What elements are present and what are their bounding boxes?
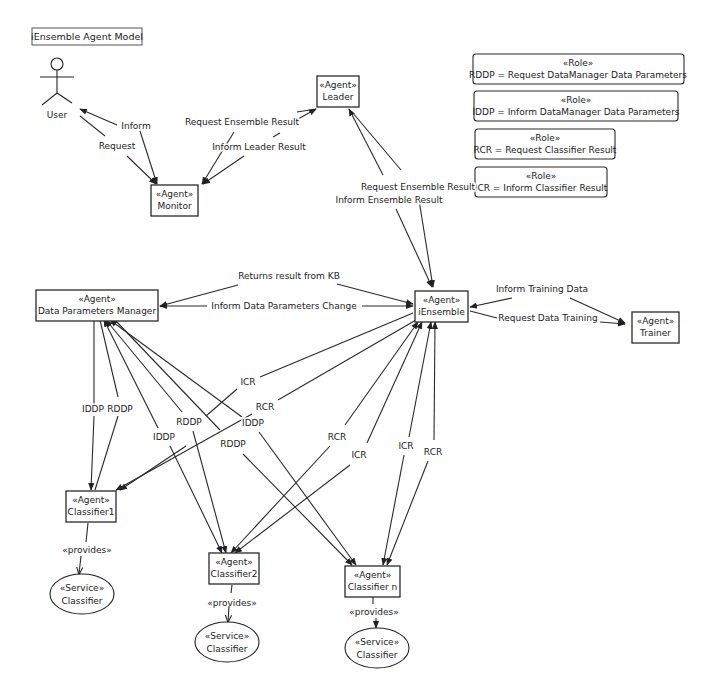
classifiern-name: Classifier n: [348, 582, 398, 592]
msg-c1-rddp: RDDP: [107, 404, 133, 414]
agent-monitor[interactable]: «Agent» Monitor: [151, 185, 198, 216]
role-iddp-text: IDDP = Inform DataManager Data Parameter…: [472, 107, 679, 117]
msg-inform-ensemble-result: Inform Ensemble Result: [335, 195, 442, 205]
msg-request-ensemble-result-top: Request Ensemble Result: [185, 117, 300, 127]
trainer-name: Trainer: [639, 328, 671, 338]
agent-iensemble[interactable]: «Agent» iEnsemble: [415, 291, 468, 322]
edge-c1-provides-top: [86, 523, 88, 542]
msg-inform: Inform: [121, 121, 150, 131]
agent-leader[interactable]: «Agent» Leader: [317, 76, 359, 107]
msg-returns-result-from-kb: Returns result from KB: [238, 271, 340, 281]
msg-request-ensemble-result: Request Ensemble Result: [361, 182, 476, 192]
edge-request-ensemble-to-monitor: [202, 132, 234, 184]
role-iddp-stereotype: «Role»: [561, 95, 591, 105]
edge-c2-iddp-bottom: [170, 446, 222, 553]
edge-c1-rcr-top: [278, 320, 416, 400]
msg-request: Request: [99, 141, 136, 151]
msg-inform-leader-result: Inform Leader Result: [212, 142, 306, 152]
msg-request-data-training: Request Data Training: [498, 313, 597, 323]
edge-inform-to-user: [80, 109, 117, 125]
iensemble-stereotype: «Agent»: [423, 295, 461, 305]
trainer-stereotype: «Agent»: [637, 316, 675, 326]
edge-inform-leader-to-monitor: [203, 156, 244, 184]
edge-request-training-to-trainer: [600, 322, 625, 324]
role-legend: «Role» RDDP = Request DataManager Data P…: [469, 54, 687, 197]
msg-inform-training-data: Inform Training Data: [496, 284, 588, 294]
role-iddp: «Role» IDDP = Inform DataManager Data Pa…: [472, 91, 679, 121]
msg-cn-iddp: IDDP: [242, 418, 265, 428]
classifier2-name: Classifier2: [211, 569, 258, 579]
edge-fragment: [273, 133, 280, 137]
msg-c2-rcr: RCR: [328, 432, 346, 442]
dpm-name: Data Parameters Manager: [38, 306, 156, 316]
role-rddp-text: RDDP = Request DataManager Data Paramete…: [469, 70, 687, 80]
classifier2-stereotype: «Agent»: [215, 557, 253, 567]
role-icr: «Role» ICR = Inform Classifier Result: [475, 167, 608, 197]
user-label: User: [47, 110, 68, 120]
diagram-title: iEnsemble Agent Model: [31, 28, 143, 45]
classifier1-name: Classifier1: [68, 507, 115, 517]
edge-cn-iddp-bottom: [259, 432, 356, 565]
leader-stereotype: «Agent»: [319, 80, 357, 90]
service-classifier-1[interactable]: «Service» Classifier: [50, 574, 114, 614]
servicen-stereotype: «Service»: [355, 637, 399, 647]
service1-name: Classifier: [61, 596, 102, 606]
user-actor[interactable]: User: [40, 58, 74, 120]
edge-c1-rddp-bottom: [95, 416, 118, 490]
edge-c1-icr-top: [260, 313, 413, 377]
agent-classifier1[interactable]: «Agent» Classifier1: [66, 491, 116, 522]
role-icr-text: ICR = Inform Classifier Result: [475, 183, 608, 193]
role-rcr-stereotype: «Role»: [530, 133, 560, 143]
role-rcr: «Role» RCR = Request Classifier Result: [474, 129, 617, 159]
provides-label-n: «provides»: [349, 607, 399, 617]
edge-request-from-user: [80, 116, 105, 136]
msg-cn-icr: ICR: [398, 441, 413, 451]
edge-c2-rddp-bottom: [193, 431, 226, 553]
agent-data-parameters-manager[interactable]: «Agent» Data Parameters Manager: [36, 290, 158, 321]
agent-trainer[interactable]: «Agent» Trainer: [632, 312, 679, 343]
servicen-name: Classifier: [356, 650, 397, 660]
edge-c2-provides-top: [231, 585, 232, 593]
edge-cn-rcr-top: [434, 322, 435, 440]
classifier1-stereotype: «Agent»: [72, 495, 110, 505]
msg-c2-icr: ICR: [351, 450, 366, 460]
edge-c1-provides-bottom: [79, 556, 81, 574]
edge-request-to-monitor: [127, 156, 156, 184]
dpm-stereotype: «Agent»: [78, 294, 116, 304]
msg-cn-rddp: RDDP: [220, 439, 246, 449]
edge-inform-training-to-iensemble: [470, 298, 512, 307]
msg-c1-rcr: RCR: [256, 402, 274, 412]
edge-c1-icr-bottom: [120, 446, 186, 490]
edge-c2-provides-bottom: [228, 606, 229, 622]
diagram-title-text: iEnsemble Agent Model: [31, 31, 143, 42]
edge-c2-rddp-top: [106, 320, 182, 412]
role-rddp-stereotype: «Role»: [563, 58, 593, 68]
role-icr-stereotype: «Role»: [526, 171, 556, 181]
edge-c1-iddp-bottom: [91, 416, 94, 490]
classifiern-stereotype: «Agent»: [354, 570, 392, 580]
service-classifier-2[interactable]: «Service» Classifier: [195, 622, 259, 662]
role-rcr-text: RCR = Request Classifier Result: [474, 145, 617, 155]
service2-name: Classifier: [206, 644, 247, 654]
msg-c2-rddp: RDDP: [176, 417, 202, 427]
agent-classifier2[interactable]: «Agent» Classifier2: [209, 553, 259, 584]
edge-cn-rddp-bottom: [243, 454, 352, 565]
service1-stereotype: «Service»: [60, 583, 104, 593]
monitor-stereotype: «Agent»: [156, 189, 194, 199]
agent-model-diagram: iEnsemble Agent Model User «Agent» Leade…: [0, 0, 709, 699]
msg-c2-iddp: IDDP: [153, 432, 176, 442]
msg-c1-icr: ICR: [240, 377, 255, 387]
provides-label-1: «provides»: [62, 545, 112, 555]
msg-cn-rcr: RCR: [424, 447, 442, 457]
service2-stereotype: «Service»: [205, 631, 249, 641]
leader-name: Leader: [323, 92, 354, 102]
role-rddp: «Role» RDDP = Request DataManager Data P…: [469, 54, 687, 84]
agent-classifier-n[interactable]: «Agent» Classifier n: [345, 566, 400, 597]
edge-cn-icr-top: [409, 322, 431, 437]
service-classifier-n[interactable]: «Service» Classifier: [345, 628, 409, 668]
iensemble-name: iEnsemble: [418, 307, 465, 317]
edge-request-training-from-iensemble: [470, 311, 497, 318]
edge-c1-icr-mid: [206, 389, 237, 416]
msg-inform-data-parameters-change: Inform Data Parameters Change: [211, 301, 357, 311]
provides-label-2: «provides»: [207, 598, 257, 608]
